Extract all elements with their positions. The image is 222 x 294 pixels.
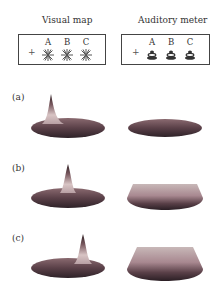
target-label-a: A	[43, 37, 53, 47]
fixation-cross: +	[28, 47, 36, 57]
auditory-meter-title: Auditory meter	[138, 15, 207, 25]
visual-activity-surface-c	[28, 230, 108, 282]
star-burst-icon	[41, 48, 55, 62]
panel-label-b: (b)	[12, 163, 25, 173]
target-label-a: A	[147, 37, 157, 47]
target-label-b: B	[166, 37, 176, 47]
star-burst-icon	[79, 48, 93, 62]
speaker-icon	[146, 49, 158, 61]
auditory-activity-surface-c	[125, 245, 205, 283]
auditory-meter-box: + A B C	[121, 34, 210, 65]
fixation-cross: +	[132, 47, 140, 57]
auditory-activity-surface-a	[125, 100, 205, 142]
visual-activity-surface-a	[28, 90, 108, 142]
visual-map-title: Visual map	[42, 15, 92, 25]
target-label-b: B	[62, 37, 72, 47]
auditory-activity-surface-b	[125, 180, 205, 212]
panel-label-a: (a)	[12, 92, 24, 102]
target-label-c: C	[81, 37, 91, 47]
visual-map-box: + A B C	[18, 34, 106, 65]
panel-label-c: (c)	[12, 233, 24, 243]
visual-activity-surface-b	[28, 160, 108, 212]
speaker-icon	[184, 49, 196, 61]
speaker-icon	[165, 49, 177, 61]
star-burst-icon	[60, 48, 74, 62]
target-label-c: C	[185, 37, 195, 47]
